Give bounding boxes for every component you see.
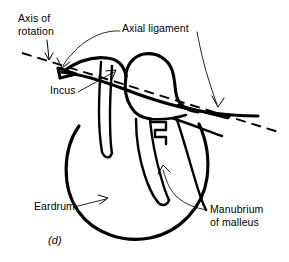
incus-long-process xyxy=(99,62,102,152)
incus-process-tip xyxy=(102,152,112,157)
manubrium-tip xyxy=(157,200,169,205)
panel-label: (d) xyxy=(48,234,62,247)
axis-of-rotation-leader xyxy=(45,40,53,60)
axial-ligament-leader-right xyxy=(197,32,224,107)
label-eardrum: Eardrum xyxy=(34,200,75,213)
malleus-head-inner-contour xyxy=(151,115,186,119)
label-axis-of-rotation: Axis of rotation xyxy=(18,12,54,37)
axial-ligament-main-band xyxy=(62,72,258,116)
label-manubrium-of-malleus: Manubrium of malleus xyxy=(210,203,263,228)
eardrum-leader xyxy=(74,195,108,207)
manubrium-posterior-edge xyxy=(150,120,169,200)
figure-panel-d: Axis of rotation Axial ligament Incus Ea… xyxy=(0,0,289,262)
axial-ligament-leader-left xyxy=(57,31,120,68)
label-axial-ligament: Axial ligament xyxy=(122,22,189,35)
label-incus: Incus xyxy=(50,84,76,97)
